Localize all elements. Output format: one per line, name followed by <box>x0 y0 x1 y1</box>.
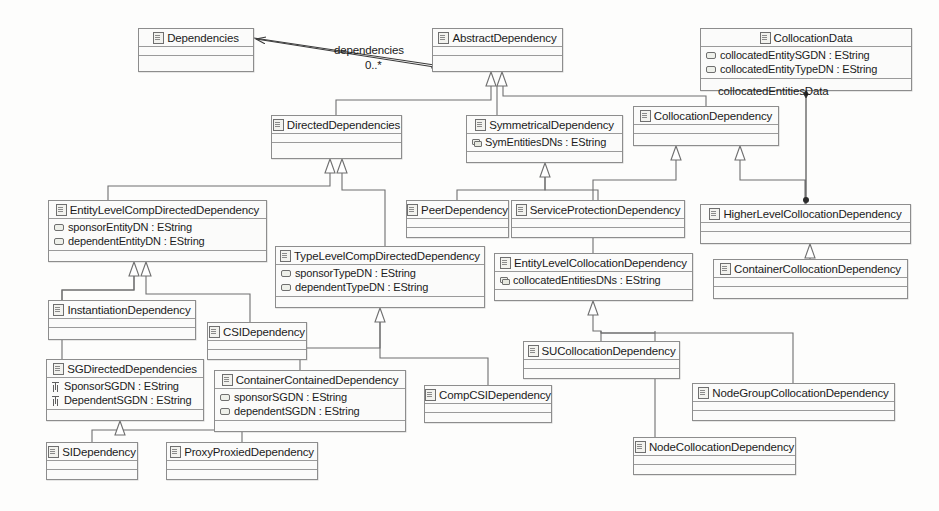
edge-entitylevelcompdirected-directeddependencies <box>108 173 330 200</box>
uml-attribute-row[interactable]: dependentSGDN : EString <box>215 404 405 418</box>
uml-class-header: AbstractDependency <box>433 29 562 47</box>
class-icon <box>407 204 418 216</box>
uml-attribute-row[interactable]: collocatedEntitiesDNs : EString <box>495 273 692 287</box>
uml-class-directedDependencies[interactable]: DirectedDependencies <box>271 115 402 159</box>
edge-higherlevelcollocation-collocationdependency <box>740 160 805 204</box>
uml-attribute-row[interactable]: dependentTypeDN : EString <box>276 280 484 294</box>
uml-operation-compartment <box>701 232 910 240</box>
uml-class-containerCollocationDependency[interactable]: ContainerCollocationDependency <box>713 259 908 299</box>
class-icon <box>280 250 291 262</box>
uml-class-name: CollocationData <box>774 31 853 45</box>
uml-class-name: DirectedDependencies <box>287 118 400 132</box>
uml-class-name: ServiceProtectionDependency <box>530 203 681 217</box>
uml-operation-compartment <box>47 470 137 478</box>
uml-attribute-row[interactable]: sponsorEntityDN : EString <box>49 220 266 234</box>
uml-attribute-compartment <box>714 278 907 287</box>
uml-operation-compartment <box>714 287 907 295</box>
uml-class-name: NodeGroupCollocationDependency <box>712 386 888 400</box>
edge-sucollocation-entitylevelcollocation <box>593 315 601 341</box>
uml-class-nodeCollocationDependency[interactable]: NodeCollocationDependency <box>633 437 796 475</box>
uml-attribute-label: collocatedEntityTypeDN : EString <box>720 62 877 76</box>
uml-attribute-compartment <box>139 47 253 56</box>
uml-operation-compartment <box>272 143 401 151</box>
uml-attribute-compartment: SponsorSGDN : EStringDependentSGDN : ESt… <box>47 378 203 410</box>
uml-attribute-row[interactable]: SponsorSGDN : EString <box>47 379 203 393</box>
uml-operation-compartment <box>693 411 894 419</box>
attribute-icon <box>706 52 716 59</box>
uml-operation-compartment <box>433 56 562 64</box>
uml-attribute-row[interactable]: SymEntitiesDNs : EString <box>467 135 622 149</box>
class-icon <box>720 263 731 275</box>
class-icon <box>53 363 64 375</box>
uml-class-header: InstantiationDependency <box>49 301 195 319</box>
uml-class-proxyProxiedDependency[interactable]: ProxyProxiedDependency <box>166 442 318 480</box>
uml-attribute-compartment: collocatedEntitySGDN : EStringcollocated… <box>701 47 911 79</box>
uml-operation-compartment <box>425 413 551 421</box>
uml-attribute-compartment <box>634 456 795 465</box>
class-icon <box>170 446 181 458</box>
uml-class-name: ContainerContainedDependency <box>236 373 399 387</box>
uml-class-name: AbstractDependency <box>452 31 556 45</box>
uml-attribute-compartment: sponsorEntityDN : EStringdependentEntity… <box>49 219 266 251</box>
uml-attribute-row[interactable]: sponsorTypeDN : EString <box>276 266 484 280</box>
class-icon <box>48 446 59 458</box>
class-icon <box>516 204 527 216</box>
uml-class-containerContainedDependency[interactable]: ContainerContainedDependencysponsorSGDN … <box>214 370 406 432</box>
uml-class-collocationDependency[interactable]: CollocationDependency <box>633 106 779 146</box>
uml-class-csiDependency[interactable]: CSIDependency <box>207 322 307 360</box>
uml-class-name: SGDirectedDependencies <box>67 362 197 376</box>
edge-label-collocated-entities-data-role: collocatedEntitiesData <box>718 85 829 98</box>
uml-attribute-label: dependentTypeDN : EString <box>295 280 428 294</box>
uml-attribute-label: sponsorTypeDN : EString <box>295 266 416 280</box>
edge-directeddependencies-abstractdependency <box>336 86 491 115</box>
uml-class-abstractDependency[interactable]: AbstractDependency <box>432 28 563 72</box>
uml-class-header: CollocationData <box>701 29 911 47</box>
class-icon <box>709 208 720 220</box>
uml-attribute-row[interactable]: DependentSGDN : EString <box>47 393 203 407</box>
uml-class-entityLevelCollocationDependency[interactable]: EntityLevelCollocationDependencycollocat… <box>494 253 693 301</box>
uml-class-header: ContainerCollocationDependency <box>714 260 907 278</box>
uml-class-symmetricalDependency[interactable]: SymmetricalDependencySymEntitiesDNs : ES… <box>466 115 623 163</box>
uml-operation-compartment <box>524 369 679 377</box>
uml-attribute-compartment <box>407 219 508 228</box>
uml-class-entityLevelCompDirectedDependency[interactable]: EntityLevelCompDirectedDependencysponsor… <box>48 200 267 262</box>
uml-class-typeLevelCompDirectedDependency[interactable]: TypeLevelCompDirectedDependencysponsorTy… <box>275 246 485 308</box>
attribute-icon <box>54 238 64 245</box>
edge-label-dependencies-multiplicity: 0..* <box>365 59 382 72</box>
class-icon <box>500 257 511 269</box>
uml-attribute-row[interactable]: collocatedEntitySGDN : EString <box>701 48 911 62</box>
uml-operation-compartment <box>49 251 266 259</box>
uml-class-compCSIDependency[interactable]: CompCSIDependency <box>424 385 552 423</box>
uml-attribute-row[interactable]: sponsorSGDN : EString <box>215 390 405 404</box>
uml-class-suCollocationDependency[interactable]: SUCollocationDependency <box>523 341 680 379</box>
uml-class-collocationData[interactable]: CollocationDatacollocatedEntitySGDN : ES… <box>700 28 912 91</box>
uml-class-dependencies[interactable]: Dependencies <box>138 28 254 72</box>
uml-attribute-compartment <box>512 219 684 228</box>
uml-class-serviceProtectionDependency[interactable]: ServiceProtectionDependency <box>511 200 685 238</box>
uml-class-sgDirectedDependencies[interactable]: SGDirectedDependenciesSponsorSGDN : EStr… <box>46 359 204 421</box>
uml-attribute-compartment: SymEntitiesDNs : EString <box>467 134 622 152</box>
class-icon <box>640 110 651 122</box>
attribute-icon <box>281 284 291 291</box>
uml-attribute-row[interactable]: collocatedEntityTypeDN : EString <box>701 62 911 76</box>
uml-class-higherLevelCollocationDependency[interactable]: HigherLevelCollocationDependency <box>700 204 911 244</box>
uml-class-header: ProxyProxiedDependency <box>167 443 317 461</box>
uml-class-header: DirectedDependencies <box>272 116 401 134</box>
uml-class-instantiationDependency[interactable]: InstantiationDependency <box>48 300 196 340</box>
class-icon <box>698 387 709 399</box>
class-icon <box>153 32 164 44</box>
uml-attribute-label: SponsorSGDN : EString <box>64 379 179 393</box>
class-icon <box>209 326 220 338</box>
uml-operation-compartment <box>167 470 317 478</box>
uml-attribute-label: dependentSGDN : EString <box>234 404 360 418</box>
uml-class-siDependency[interactable]: SIDependency <box>46 442 138 480</box>
uml-class-header: SUCollocationDependency <box>524 342 679 360</box>
uml-operation-compartment <box>47 410 203 418</box>
uml-class-nodeGroupCollocationDependency[interactable]: NodeGroupCollocationDependency <box>692 383 895 421</box>
uml-class-peerDependency[interactable]: PeerDependency <box>406 200 509 238</box>
uml-operation-compartment <box>276 297 484 305</box>
uml-operation-compartment <box>467 152 622 160</box>
attribute-multi-icon <box>472 139 481 146</box>
uml-class-name: PeerDependency <box>421 203 508 217</box>
uml-attribute-row[interactable]: dependentEntityDN : EString <box>49 234 266 248</box>
